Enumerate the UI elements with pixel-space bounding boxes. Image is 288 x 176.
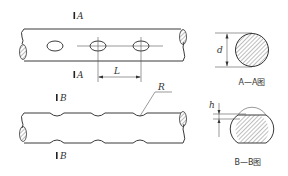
- left-break-line: [21, 29, 24, 44]
- section-b-hatch: [236, 114, 269, 147]
- section-mark-b-bottom: [56, 152, 58, 159]
- section-a-caption: A—A图: [239, 78, 266, 87]
- section-b-caption: B—B图: [235, 158, 262, 167]
- dimension-l-label: L: [113, 66, 120, 76]
- left-break-hatch: [20, 45, 27, 60]
- section-a-circle: [236, 34, 269, 67]
- section-mark-b-top: [56, 94, 58, 101]
- radius-label: R: [157, 82, 165, 92]
- notched-top-edge: [24, 113, 181, 116]
- dimension-d-label: d: [217, 45, 223, 55]
- left-break-line-b: [21, 113, 24, 128]
- section-label-a-top: A: [76, 11, 84, 21]
- shaft-with-notches: R B B: [20, 82, 187, 161]
- section-label-a-bottom: A: [76, 70, 84, 80]
- right-break-hatch: [180, 30, 187, 45]
- radius-leader: [140, 92, 172, 116]
- section-label-b-bottom: B: [59, 151, 67, 161]
- section-mark-a-bottom: [74, 71, 76, 78]
- section-mark-a-top: [74, 12, 76, 19]
- hole-1: [47, 41, 63, 51]
- dimension-h-label: h: [209, 100, 215, 110]
- notched-bottom-edge: [24, 140, 183, 143]
- section-label-b-top: B: [59, 93, 67, 103]
- section-a-a: d A—A图: [215, 33, 269, 87]
- section-b-b: h B—B图: [209, 100, 274, 167]
- engineering-drawing: L A A d A—A图 R B B: [0, 0, 288, 176]
- shaft-with-holes: L A A: [20, 11, 187, 82]
